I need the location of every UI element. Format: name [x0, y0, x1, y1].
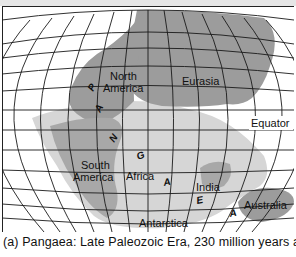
- label-south-america-2: America: [73, 171, 114, 183]
- label-india: India: [196, 181, 221, 193]
- label-eurasia: Eurasia: [182, 75, 220, 87]
- label-australia: Australia: [244, 199, 288, 211]
- label-africa: Africa: [126, 170, 155, 182]
- label-equator: Equator: [251, 117, 290, 129]
- label-north-america-1: North: [110, 70, 137, 82]
- label-antarctica: Antarctica: [139, 217, 189, 229]
- pangaea-map: North America Eurasia Equator South Amer…: [2, 6, 294, 232]
- label-south-america-1: South: [81, 159, 110, 171]
- label-north-america-2: America: [103, 82, 144, 94]
- figure-caption: (a) Pangaea: Late Paleozoic Era, 230 mil…: [3, 235, 296, 249]
